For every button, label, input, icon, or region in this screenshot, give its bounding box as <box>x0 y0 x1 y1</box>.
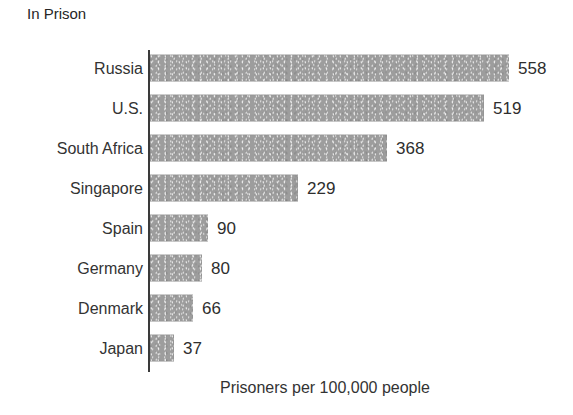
category-label: Denmark <box>78 299 143 318</box>
bar-with-value: 519 <box>150 95 521 122</box>
bar-with-value: 37 <box>150 335 202 362</box>
bar <box>150 175 298 202</box>
bar <box>150 55 509 82</box>
bar <box>150 95 484 122</box>
category-label: Singapore <box>70 179 143 198</box>
bar-row: U.S.519 <box>0 88 573 128</box>
bar-value-label: 368 <box>396 138 424 158</box>
bar-row: South Africa368 <box>0 128 573 168</box>
bar-with-value: 66 <box>150 295 221 322</box>
bar-value-label: 519 <box>493 98 521 118</box>
bar <box>150 215 208 242</box>
bar-row: Spain90 <box>0 208 573 248</box>
bar-row: Singapore229 <box>0 168 573 208</box>
bar-value-label: 90 <box>217 218 236 238</box>
bar-rows: Russia558U.S.519South Africa368Singapore… <box>0 48 573 368</box>
bar-row: Japan37 <box>0 328 573 368</box>
bar-value-label: 229 <box>307 178 335 198</box>
bar-with-value: 558 <box>150 55 546 82</box>
bar-with-value: 368 <box>150 135 424 162</box>
bar-row: Russia558 <box>0 48 573 88</box>
bar <box>150 295 193 322</box>
category-label: South Africa <box>57 139 143 158</box>
plot-area: Russia558U.S.519South Africa368Singapore… <box>0 48 573 373</box>
category-label: Japan <box>99 339 143 358</box>
bar-value-label: 37 <box>183 338 202 358</box>
category-label: U.S. <box>112 99 143 118</box>
category-label: Germany <box>77 259 143 278</box>
bar-value-label: 80 <box>211 258 230 278</box>
category-label: Spain <box>102 219 143 238</box>
bar-row: Germany80 <box>0 248 573 288</box>
bar-with-value: 229 <box>150 175 335 202</box>
category-label: Russia <box>94 59 143 78</box>
bar-with-value: 80 <box>150 255 230 282</box>
chart-title: In Prison <box>27 5 86 23</box>
bar-value-label: 66 <box>202 298 221 318</box>
bar <box>150 255 202 282</box>
bar <box>150 135 387 162</box>
bar-row: Denmark66 <box>0 288 573 328</box>
bar-value-label: 558 <box>518 58 546 78</box>
bar-with-value: 90 <box>150 215 236 242</box>
x-axis-caption: Prisoners per 100,000 people <box>220 378 430 397</box>
bar-chart: In Prison Russia558U.S.519South Africa36… <box>0 0 573 415</box>
bar <box>150 335 174 362</box>
